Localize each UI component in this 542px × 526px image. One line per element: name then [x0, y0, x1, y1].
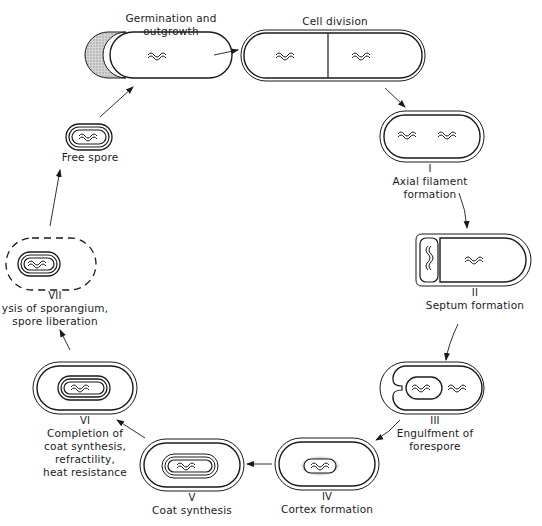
- stage-3-cell: [380, 362, 484, 414]
- stage-4-cell: [275, 438, 379, 490]
- label-germination: Germination and outgrowth: [96, 12, 246, 38]
- stage-7-numeral: VII: [0, 289, 110, 302]
- label-stage-6-line4: heat resistance: [43, 466, 127, 478]
- stage-6-cell: [33, 362, 137, 414]
- label-stage-6-line3: refractility,: [55, 453, 115, 465]
- arrow-germination-to-division: [214, 50, 238, 55]
- arrow-stage-6-to-stage-7: [60, 330, 70, 350]
- stage-7-cell: [6, 238, 96, 290]
- label-stage-6-line1: Completion of: [47, 427, 123, 439]
- label-stage-4-line1: Cortex formation: [281, 503, 373, 515]
- label-cell-division: Cell division: [280, 15, 390, 28]
- arrow-stage-7-to-free-spore: [50, 170, 60, 226]
- label-stage-1: I Axial filament formation: [375, 162, 485, 201]
- label-stage-6: VI Completion of coat synthesis, refract…: [25, 414, 145, 479]
- free-spore-cell: [66, 124, 112, 150]
- label-stage-3-line1: Engulfment of: [397, 427, 474, 439]
- label-stage-3-line2: forespore: [409, 440, 461, 452]
- stage-4-numeral: IV: [272, 490, 382, 503]
- stage-3-numeral: III: [380, 414, 490, 427]
- stage-5-numeral: V: [137, 491, 247, 504]
- label-stage-1-line1: Axial filament: [392, 175, 467, 187]
- label-germination-line2: outgrowth: [143, 25, 199, 37]
- label-stage-2: II Septum formation: [408, 286, 542, 312]
- arrow-division-to-stage-1: [385, 88, 405, 107]
- stage-5-cell: [140, 439, 244, 491]
- label-stage-7-line2: spore liberation: [12, 315, 97, 327]
- arrow-stage-2-to-stage-3: [446, 324, 458, 360]
- label-stage-4: IV Cortex formation: [272, 490, 382, 516]
- label-free-spore-text: Free spore: [62, 151, 119, 163]
- stage-1-cell: [380, 111, 484, 162]
- cycle-arrows: [50, 50, 467, 464]
- arrow-free-spore-to-germination: [100, 87, 133, 117]
- stage-1-numeral: I: [375, 162, 485, 175]
- stage-2-cell: [416, 234, 531, 286]
- label-germination-line1: Germination and: [125, 12, 216, 24]
- label-stage-6-line2: coat synthesis,: [44, 440, 126, 452]
- stage-2-numeral: II: [408, 286, 542, 299]
- label-stage-3: III Engulfment of forespore: [380, 414, 490, 453]
- label-stage-2-line1: Septum formation: [426, 299, 524, 311]
- label-stage-7-line1: ysis of sporangium,: [2, 302, 108, 314]
- label-cell-division-text: Cell division: [302, 15, 368, 27]
- label-stage-1-line2: formation: [404, 188, 457, 200]
- cell-division-cell: [241, 30, 425, 81]
- label-stage-5: V Coat synthesis: [137, 491, 247, 517]
- stage-6-numeral: VI: [25, 414, 145, 427]
- germination-cell: [85, 32, 232, 78]
- label-stage-5-line1: Coat synthesis: [152, 504, 232, 516]
- label-stage-7: VII ysis of sporangium, spore liberation: [0, 289, 110, 328]
- label-free-spore: Free spore: [40, 151, 140, 164]
